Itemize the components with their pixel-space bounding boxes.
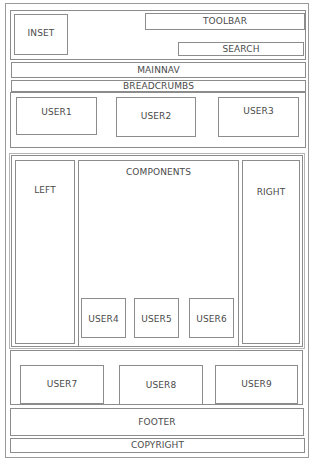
breadcrumbs-label: BREADCRUMBS bbox=[12, 81, 305, 91]
user1-block: USER1 bbox=[16, 97, 97, 135]
user4-label: USER4 bbox=[82, 314, 125, 324]
user4-block: USER4 bbox=[81, 298, 126, 338]
user2-label: USER2 bbox=[117, 111, 195, 121]
copyright-label: COPYRIGHT bbox=[11, 440, 304, 450]
copyright-block: COPYRIGHT bbox=[10, 438, 305, 453]
user6-label: USER6 bbox=[190, 314, 233, 324]
user7-label: USER7 bbox=[21, 379, 103, 389]
inset-block: INSET bbox=[14, 14, 68, 55]
components-label: COMPONENTS bbox=[79, 167, 238, 177]
user2-block: USER2 bbox=[116, 97, 196, 137]
toolbar-block[interactable]: TOOLBAR bbox=[145, 13, 305, 30]
breadcrumbs-block[interactable]: BREADCRUMBS bbox=[11, 80, 306, 92]
user9-label: USER9 bbox=[216, 379, 297, 389]
inset-label: INSET bbox=[15, 28, 67, 38]
user8-label: USER8 bbox=[120, 380, 202, 390]
mainnav-label: MAINNAV bbox=[12, 65, 305, 75]
user3-label: USER3 bbox=[219, 106, 298, 116]
user9-block: USER9 bbox=[215, 365, 298, 404]
mainnav-block[interactable]: MAINNAV bbox=[11, 62, 306, 78]
user3-block: USER3 bbox=[218, 97, 299, 137]
user8-block: USER8 bbox=[119, 365, 203, 405]
search-label: SEARCH bbox=[179, 44, 303, 54]
user5-block: USER5 bbox=[134, 298, 179, 338]
search-block[interactable]: SEARCH bbox=[178, 42, 304, 56]
user5-label: USER5 bbox=[135, 314, 178, 324]
right-label: RIGHT bbox=[243, 187, 299, 197]
footer-label: FOOTER bbox=[11, 417, 303, 427]
left-label: LEFT bbox=[16, 185, 74, 195]
toolbar-label: TOOLBAR bbox=[146, 16, 304, 26]
footer-block: FOOTER bbox=[10, 408, 304, 436]
user1-label: USER1 bbox=[17, 107, 96, 117]
left-column: LEFT bbox=[15, 160, 75, 344]
user7-block: USER7 bbox=[20, 365, 104, 404]
user6-block: USER6 bbox=[189, 298, 234, 338]
right-column: RIGHT bbox=[242, 160, 300, 344]
